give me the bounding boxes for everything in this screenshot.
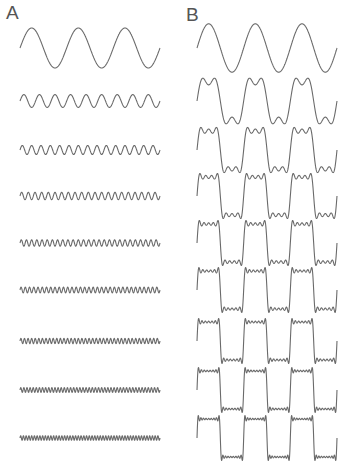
partial-sum-wave-6 (197, 268, 337, 313)
harmonic-wave-9 (20, 240, 160, 246)
partial-sum-wave-2 (197, 78, 337, 124)
partial-sum-wave-8 (197, 368, 337, 413)
partial-sum-wave-7 (197, 319, 337, 364)
partial-sum-wave-4 (197, 174, 337, 219)
harmonic-wave-3 (20, 95, 160, 108)
harmonic-wave-11 (20, 287, 160, 293)
panel-b-partial-sums (197, 24, 337, 461)
harmonic-wave-13 (20, 338, 160, 343)
harmonic-wave-17 (20, 436, 160, 441)
harmonic-wave-7 (20, 192, 160, 199)
panel-a-harmonics (20, 28, 160, 440)
harmonic-wave-5 (20, 145, 160, 154)
partial-sum-wave-3 (197, 127, 337, 172)
partial-sum-wave-1 (197, 24, 337, 72)
harmonic-wave-15 (20, 388, 160, 393)
fourier-figure (0, 0, 343, 465)
partial-sum-wave-5 (197, 221, 337, 266)
partial-sum-wave-9 (197, 416, 337, 461)
harmonic-wave-1 (20, 28, 160, 68)
